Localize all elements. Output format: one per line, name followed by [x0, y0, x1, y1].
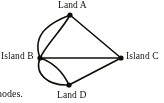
- node-label-land-a: Land A: [58, 1, 87, 11]
- node-label-island-b: Island B: [1, 52, 34, 62]
- node-island-b-dot: [37, 55, 42, 60]
- node-label-island-c: Island C: [126, 52, 159, 62]
- node-land-d-dot: [66, 82, 71, 87]
- edge-land-a-island-c: [70, 15, 121, 58]
- node-island-c-dot: [118, 55, 123, 60]
- figure-canvas: Land A Island B Island C Land D nodes.: [0, 0, 164, 103]
- caption-fragment: nodes.: [0, 89, 23, 99]
- edge-land-d-island-c: [69, 58, 121, 85]
- node-label-land-d: Land D: [57, 91, 86, 101]
- edge-island-b-land-d-inner: [40, 58, 69, 85]
- node-land-a-dot: [67, 12, 72, 17]
- edge-island-b-land-d-outer: [39, 58, 69, 85]
